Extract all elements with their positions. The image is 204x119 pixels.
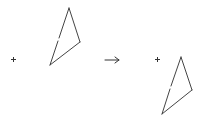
left-triangle-right-edge: [69, 8, 80, 42]
right-triangle-right-edge: [181, 57, 192, 90]
left-triangle-bottom-edge: [50, 42, 80, 65]
right-triangle-left-edge-upper: [171, 57, 181, 86]
left-center-plus-icon: [11, 57, 16, 62]
right-triangle-bottom-edge: [162, 90, 192, 114]
arrow-right-icon: [105, 57, 119, 63]
right-triangle: [162, 57, 192, 114]
left-triangle: [50, 8, 80, 65]
left-triangle-left-edge-upper: [59, 8, 69, 38]
right-center-plus-icon: [155, 57, 160, 62]
diagram-svg: [0, 0, 204, 119]
